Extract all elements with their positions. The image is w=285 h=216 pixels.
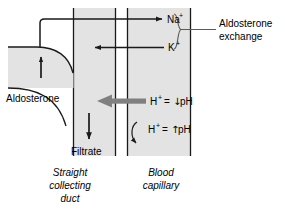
duct-label-line2: collecting bbox=[49, 180, 91, 191]
diagram-figure: Na + K + Aldosterone exchange Aldosteron… bbox=[0, 0, 285, 216]
capillary-label-line2: capillary bbox=[143, 180, 181, 191]
hydrogen-high-ph-equals: = bbox=[162, 124, 168, 135]
potassium-charge-text: + bbox=[176, 40, 180, 47]
capillary-label-line1: Blood bbox=[148, 167, 174, 178]
duct-label-line3: duct bbox=[61, 193, 81, 204]
filtrate-label: Filtrate bbox=[71, 146, 102, 157]
aldosterone-label: Aldosterone bbox=[6, 93, 60, 104]
potassium-label-text: K bbox=[168, 42, 175, 53]
diagram-canvas: Na + K + Aldosterone exchange Aldosteron… bbox=[0, 0, 285, 216]
duct-label-line1: Straight bbox=[53, 167, 89, 178]
sodium-charge-text: + bbox=[179, 12, 183, 19]
aldosterone-exchange-line1: Aldosterone bbox=[219, 18, 273, 29]
duct-band-shading bbox=[73, 8, 116, 156]
hydrogen-low-ph-equals: = bbox=[164, 96, 170, 107]
hydrogen-high-ph-charge: + bbox=[156, 122, 160, 129]
hydrogen-low-ph-ion: H bbox=[150, 96, 157, 107]
hydrogen-high-ph-unit: pH bbox=[178, 124, 191, 135]
hydrogen-low-ph-unit: pH bbox=[180, 96, 193, 107]
hydrogen-high-ph-ion: H bbox=[148, 124, 155, 135]
hydrogen-low-ph-charge: + bbox=[158, 94, 162, 101]
aldosterone-exchange-line2: exchange bbox=[219, 31, 263, 42]
